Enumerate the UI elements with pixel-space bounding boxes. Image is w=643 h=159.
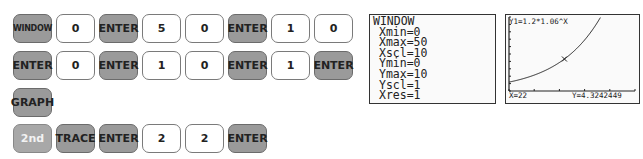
key-2: 2 — [142, 124, 181, 153]
trace-x-readout: X=22 — [509, 91, 527, 100]
key-window: WINDOW — [13, 14, 52, 43]
keystroke-row: ENTER0ENTER10ENTER1ENTER — [13, 51, 353, 80]
key-enter: ENTER — [99, 51, 138, 80]
keystroke-row: GRAPH — [13, 88, 52, 117]
key-enter: ENTER — [99, 14, 138, 43]
window-settings-screen: WINDOW Xmin=0Xmax=50Xscl=10Ymin=0Ymax=10… — [369, 14, 496, 104]
key-0: 0 — [314, 14, 353, 43]
key-1: 1 — [271, 51, 310, 80]
key-0: 0 — [185, 14, 224, 43]
key-enter: ENTER — [228, 124, 267, 153]
key-5: 5 — [142, 14, 181, 43]
key-enter: ENTER — [314, 51, 353, 80]
key-2nd: 2nd — [13, 124, 52, 153]
key-enter: ENTER — [13, 51, 52, 80]
graph-plot: Y1=1.2*1.06^X X=22 Y=4.3242449 — [506, 15, 638, 102]
function-curve — [509, 18, 600, 83]
key-enter: ENTER — [99, 124, 138, 153]
keystroke-row: WINDOW0ENTER50ENTER10 — [13, 14, 353, 43]
key-1: 1 — [271, 14, 310, 43]
key-enter: ENTER — [228, 14, 267, 43]
key-1: 1 — [142, 51, 181, 80]
key-0: 0 — [185, 51, 224, 80]
key-0: 0 — [56, 14, 95, 43]
keystroke-row: 2ndTRACEENTER22ENTER — [13, 124, 267, 153]
key-0: 0 — [56, 51, 95, 80]
trace-y-readout: Y=4.3242449 — [572, 91, 622, 100]
key-graph: GRAPH — [13, 88, 52, 117]
key-trace: TRACE — [56, 124, 95, 153]
key-2: 2 — [185, 124, 224, 153]
window-setting: Xres=1 — [379, 90, 492, 101]
window-settings-list: Xmin=0Xmax=50Xscl=10Ymin=0Ymax=10Yscl=1X… — [373, 27, 492, 101]
key-enter: ENTER — [228, 51, 267, 80]
graph-screen: Y1=1.2*1.06^X X=22 Y=4.3242449 — [505, 14, 640, 104]
graph-equation: Y1=1.2*1.06^X — [509, 17, 568, 26]
